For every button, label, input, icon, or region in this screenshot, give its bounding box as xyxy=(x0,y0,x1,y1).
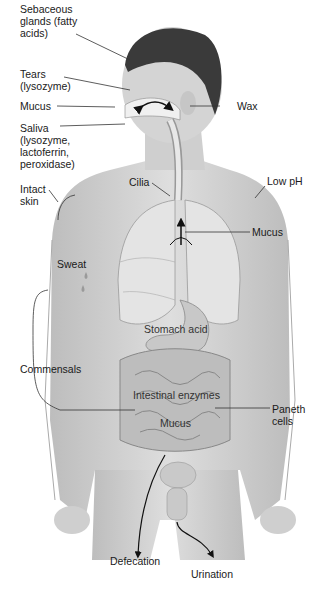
label-paneth-cells: Paneth cells xyxy=(272,403,305,427)
label-intact-skin: Intact skin xyxy=(20,183,46,207)
label-mucus-nose: Mucus xyxy=(20,100,51,112)
label-stomach-acid: Stomach acid xyxy=(144,323,208,335)
label-tears: Tears (lysozyme) xyxy=(20,68,71,92)
label-mucus-airway: Mucus xyxy=(252,226,283,238)
label-low-ph: Low pH xyxy=(267,175,303,187)
label-saliva: Saliva (lysozyme, lactoferrin, peroxidas… xyxy=(20,122,75,170)
body-silhouette xyxy=(45,27,296,560)
label-urination: Urination xyxy=(191,568,233,580)
label-commensals: Commensals xyxy=(20,363,81,375)
label-wax: Wax xyxy=(237,100,258,112)
label-cilia: Cilia xyxy=(129,176,149,188)
label-mucus-gut: Mucus xyxy=(160,417,191,429)
label-intestinal-enzymes: Intestinal enzymes xyxy=(133,389,220,401)
label-sweat: Sweat xyxy=(57,258,86,270)
label-sebaceous-glands: Sebaceous glands (fatty acids) xyxy=(20,3,77,39)
label-defecation: Defecation xyxy=(110,555,160,567)
